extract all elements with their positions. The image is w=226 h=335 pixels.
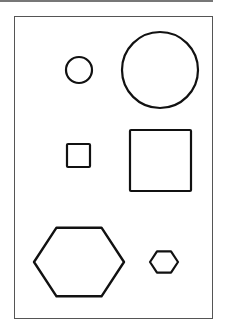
large-square — [130, 130, 191, 191]
large-circle — [122, 32, 198, 108]
small-circle — [66, 57, 92, 83]
shapes-figure — [0, 0, 226, 335]
small-hexagon — [150, 251, 178, 272]
small-square — [67, 144, 90, 167]
figure-frame — [15, 17, 213, 319]
large-hexagon — [34, 228, 124, 297]
